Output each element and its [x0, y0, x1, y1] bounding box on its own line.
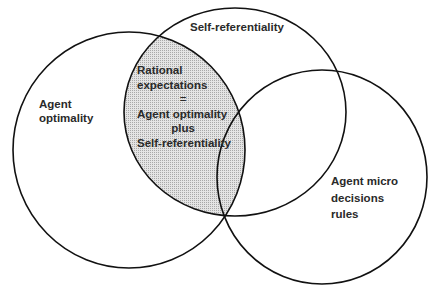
label-line: Agent micro: [331, 173, 398, 190]
label-agent-micro-decisions-rules: Agent micro decisions rules: [331, 173, 398, 223]
label-agent-optimality: Agent optimality: [39, 98, 93, 125]
label-line: expectations: [134, 78, 244, 93]
label-line: Agent optimality: [134, 107, 244, 122]
label-line: rules: [331, 206, 398, 223]
label-line: =: [134, 92, 244, 107]
label-line: Self-referentiality: [134, 136, 244, 151]
label-line: Rational: [134, 63, 244, 78]
label-line: optimality: [39, 112, 93, 126]
venn-diagram: Agent optimality Self-referentiality Age…: [0, 0, 440, 291]
label-line: Self-referentiality: [190, 21, 284, 35]
label-self-referentiality: Self-referentiality: [190, 21, 284, 35]
label-line: Agent: [39, 98, 93, 112]
label-line: plus: [134, 121, 244, 136]
label-rational-expectations: Rational expectations = Agent optimality…: [134, 63, 244, 150]
label-line: decisions: [331, 190, 398, 207]
